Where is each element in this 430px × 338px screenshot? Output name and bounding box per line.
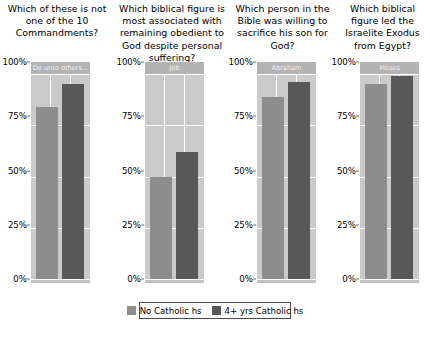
plot-foot-4: [360, 279, 419, 283]
panel-answer-label-3: Abraham: [257, 62, 316, 74]
bar-catholic-hs-1: [62, 84, 84, 279]
y-tick-label: 50%: [234, 166, 253, 176]
plot-foot-1: [31, 279, 90, 283]
chart-panels: Which of these is not one of the 10 Comm…: [0, 0, 430, 292]
panel-question-4: Which biblical figure led the Israelite …: [335, 3, 430, 49]
bar-catholic-hs-2: [176, 152, 198, 279]
y-tick-label: 25%: [234, 220, 253, 230]
y-tick-label: 25%: [8, 220, 27, 230]
plot-area-4: [360, 74, 419, 279]
plot-3: Abraham: [257, 62, 316, 283]
bar-catholic-hs-4: [391, 76, 413, 279]
y-tick-label: 75%: [337, 111, 356, 121]
panel-question-2: Which biblical figure is most associated…: [114, 3, 230, 49]
y-tick-label: 100%: [2, 57, 27, 67]
bar-no-catholic-hs-3: [262, 97, 284, 279]
legend-item-no-catholic-hs: No Catholic hs: [127, 306, 202, 316]
y-tick-label: 100%: [228, 57, 253, 67]
panel-question-1: Which of these is not one of the 10 Comm…: [0, 3, 114, 49]
y-tick-label: 0%: [13, 274, 27, 284]
y-axis-1: 100% 75% 50% 25% 0%: [0, 62, 30, 279]
y-tick-label: 25%: [337, 220, 356, 230]
legend-swatch-icon: [127, 306, 136, 315]
y-axis-2: 100% 75% 50% 25% 0%: [114, 62, 144, 279]
plot-area-3: [257, 74, 316, 279]
y-tick-label: 0%: [342, 274, 356, 284]
y-tick-label: 25%: [122, 220, 141, 230]
plot-area-1: [31, 74, 90, 279]
bar-no-catholic-hs-1: [36, 107, 58, 279]
plot-foot-3: [257, 279, 316, 283]
chart-panel-2: Which biblical figure is most associated…: [114, 0, 230, 292]
chart-panel-1: Which of these is not one of the 10 Comm…: [0, 0, 114, 292]
y-tick-label: 100%: [331, 57, 356, 67]
y-tick-label: 50%: [337, 166, 356, 176]
plot-2: Job: [145, 62, 204, 283]
y-tick-label: 50%: [8, 166, 27, 176]
y-tick-label: 75%: [234, 111, 253, 121]
plot-4: Moses: [360, 62, 419, 283]
panel-question-3: Which person in the Bible was willing to…: [230, 3, 335, 49]
bar-no-catholic-hs-2: [150, 177, 172, 280]
y-tick-label: 100%: [116, 57, 141, 67]
panel-answer-label-4: Moses: [360, 62, 419, 74]
y-tick-label: 75%: [122, 111, 141, 121]
plot-foot-2: [145, 279, 204, 283]
bar-no-catholic-hs-4: [365, 84, 387, 279]
y-tick-label: 75%: [8, 111, 27, 121]
panel-answer-label-1: Do unto others...: [31, 62, 90, 74]
chart-panel-3: Which person in the Bible was willing to…: [230, 0, 335, 292]
plot-area-2: [145, 74, 204, 279]
legend-label: 4+ yrs Catholic hs: [225, 306, 304, 316]
y-tick-label: 0%: [127, 274, 141, 284]
bar-catholic-hs-3: [288, 82, 310, 279]
plot-1: Do unto others...: [31, 62, 90, 283]
y-tick-label: 0%: [239, 274, 253, 284]
chart-legend: No Catholic hs 4+ yrs Catholic hs: [139, 302, 291, 319]
panel-answer-label-2: Job: [145, 62, 204, 74]
chart-panel-4: Which biblical figure led the Israelite …: [335, 0, 430, 292]
y-tick-label: 50%: [122, 166, 141, 176]
y-axis-3: 100% 75% 50% 25% 0%: [226, 62, 256, 279]
legend-label: No Catholic hs: [140, 306, 202, 316]
y-axis-4: 100% 75% 50% 25% 0%: [329, 62, 359, 279]
legend-swatch-icon: [212, 306, 221, 315]
legend-item-catholic-hs: 4+ yrs Catholic hs: [212, 306, 304, 316]
